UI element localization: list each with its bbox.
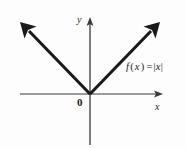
function-equation-label: f(x)=|x| xyxy=(126,62,163,73)
absolute-value-graph-figure: y x 0 f(x)=|x| xyxy=(0,0,186,148)
graph-canvas xyxy=(0,0,186,148)
function-equals-sign: = xyxy=(145,61,153,72)
abs-right-bar: | xyxy=(161,61,163,72)
origin-label: 0 xyxy=(77,97,83,108)
y-axis-label: y xyxy=(77,15,81,25)
function-variable: x xyxy=(135,61,140,72)
function-left-branch xyxy=(29,31,90,94)
x-axis-label: x xyxy=(155,102,159,112)
